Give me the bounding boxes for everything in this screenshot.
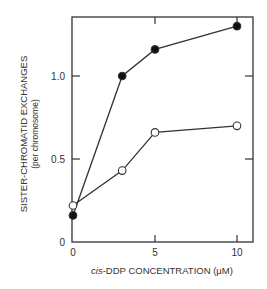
y-tick-label: 0.5 [51, 154, 65, 165]
x-axis-title-italic: cis [91, 265, 103, 276]
open-circle-marker [233, 122, 241, 130]
filled-circle-marker [233, 22, 241, 30]
y-axis-subtitle: (per chromosome) [30, 99, 40, 169]
plot-border [72, 17, 253, 242]
x-tick-label: 10 [231, 247, 243, 258]
x-axis-title-rest: -DDP CONCENTRATION (μM) [103, 265, 233, 276]
data-series [69, 22, 241, 219]
x-tick-label: 0 [70, 247, 76, 258]
filled-circle-marker [69, 212, 77, 220]
y-tick-label: 0 [59, 237, 65, 248]
axis-ticks: 051000.51.0 [51, 17, 253, 258]
y-tick-label: 1.0 [51, 71, 65, 82]
sce-line-chart: 051000.51.0 SISTER-CHROMATID EXCHANGES (… [0, 0, 267, 289]
plot-frame [72, 17, 253, 242]
x-tick-label: 5 [152, 247, 158, 258]
filled-circle-marker [118, 72, 126, 80]
series-line [73, 26, 237, 215]
y-axis-title: SISTER-CHROMATID EXCHANGES [18, 56, 29, 213]
series-line [73, 126, 237, 206]
open-circle-marker [69, 202, 77, 210]
x-axis-title: cis-DDP CONCENTRATION (μM) [91, 265, 233, 276]
open-circle-marker [151, 129, 159, 137]
open-circle-marker [118, 167, 126, 175]
filled-circle-marker [151, 46, 159, 54]
